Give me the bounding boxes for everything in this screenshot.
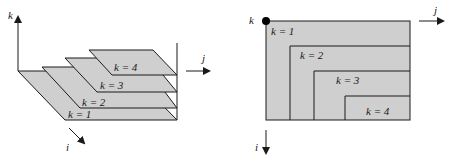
origin-dot-icon: [262, 17, 270, 25]
region-label-k1: k = 1: [271, 25, 294, 37]
left-j-axis-label: j: [200, 52, 205, 64]
plane-label-k3: k = 3: [100, 79, 124, 91]
right-j-axis-label: j: [432, 4, 437, 16]
right-k-axis-label: k: [249, 14, 255, 26]
region-label-k4: k = 4: [366, 105, 390, 117]
plane-label-k1: k = 1: [68, 108, 91, 120]
left-i-axis-label: i: [66, 141, 69, 153]
diagram-canvas: k k = 1 k = 2 k = 3 k = 4 j i k k = 1 k …: [0, 0, 449, 161]
left-diagram: k k = 1 k = 2 k = 3 k = 4 j i: [8, 9, 209, 153]
right-diagram: k k = 1 k = 2 k = 3 k = 4 j i: [249, 4, 443, 153]
region-label-k2: k = 2: [300, 49, 324, 61]
plane-label-k2: k = 2: [82, 96, 106, 108]
region-label-k3: k = 3: [336, 74, 360, 86]
i-axis-arrow-icon: [69, 128, 84, 143]
left-k-axis-label: k: [8, 9, 14, 21]
plane-label-k4: k = 4: [114, 61, 138, 73]
right-i-axis-label: i: [255, 141, 258, 153]
